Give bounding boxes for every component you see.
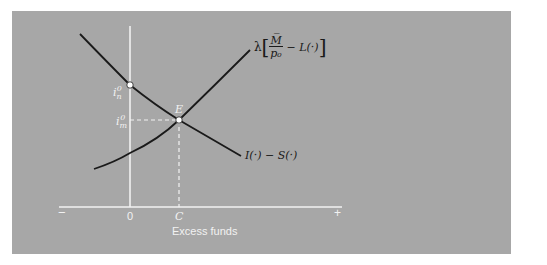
i-m-sup: 0 — [120, 113, 125, 122]
i-n-sup: 0 — [117, 84, 122, 93]
equilibrium-label: E — [175, 103, 183, 116]
x-axis-plus-label: + — [334, 206, 341, 220]
i-n-label: in0 — [113, 84, 127, 101]
demand-curve-label: I(·) − S(·) — [245, 149, 297, 162]
i-m-label: im0 — [116, 113, 132, 130]
x-axis-title: Excess funds — [172, 225, 237, 237]
fraction-numerator: M̅ — [269, 35, 282, 47]
x-tick-c: C — [175, 210, 183, 223]
i-m-sub: m — [120, 121, 128, 130]
supply-suffix: − L(·) — [287, 41, 319, 54]
demand-curve — [80, 34, 241, 156]
i-n-sub: n — [117, 92, 122, 101]
equilibrium-point — [176, 117, 182, 123]
x-tick-zero: 0 — [127, 210, 133, 222]
right-bracket: ] — [319, 35, 327, 59]
lambda-symbol: λ — [254, 40, 262, 54]
m-over-p-fraction: M̅p₀ — [269, 35, 282, 59]
i-n-point — [127, 82, 133, 88]
supply-curve — [94, 50, 250, 169]
supply-curve-label: λ[M̅p₀ − L(·)] — [254, 35, 326, 59]
fraction-denominator: p₀ — [269, 47, 282, 59]
x-axis-minus-label: − — [58, 205, 66, 220]
left-bracket: [ — [262, 35, 270, 59]
